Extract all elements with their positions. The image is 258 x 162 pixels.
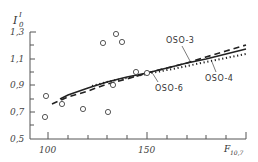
data-point	[43, 93, 48, 98]
label-oso-4: OSO-4	[205, 74, 233, 83]
data-point	[119, 39, 124, 44]
x-axis-label: F 10,7	[223, 144, 244, 156]
y-tick-label: 0,9	[10, 80, 25, 90]
data-point	[113, 31, 118, 36]
curve-labels: OSO-3 OSO-6 OSO-4	[155, 36, 233, 93]
leader-oso-4	[212, 62, 216, 72]
y-tick-label: 1,3	[10, 27, 25, 37]
data-point	[105, 109, 110, 114]
data-point	[80, 106, 85, 111]
x-axis-label-sub: 10,7	[230, 149, 244, 156]
data-point	[144, 70, 149, 75]
y-tick-label: 1,1	[10, 54, 24, 64]
leader-oso-6	[153, 74, 158, 82]
y-axis-label-sup: I	[18, 11, 22, 19]
y-axis-label-main: I	[12, 14, 18, 27]
data-point	[59, 101, 64, 106]
axes	[30, 32, 246, 139]
y-tick-label: 0,5	[10, 134, 25, 144]
data-point	[133, 69, 138, 74]
label-oso-6: OSO-6	[155, 84, 183, 93]
data-point	[100, 40, 105, 45]
chart: I I 0 1,3 1,1 0,9 0,7 0,5	[0, 0, 258, 162]
y-tick-label: 0,7	[10, 107, 25, 117]
x-tick-labels: 100 150	[39, 145, 155, 155]
data-point	[42, 114, 47, 119]
data-point	[110, 82, 115, 87]
y-tick-labels: 1,3 1,1 0,9 0,7 0,5	[10, 27, 25, 144]
leader-oso-3	[182, 46, 190, 61]
label-oso-3: OSO-3	[166, 36, 194, 45]
x-tick-label: 150	[138, 145, 155, 155]
x-tick-label: 100	[39, 145, 56, 155]
